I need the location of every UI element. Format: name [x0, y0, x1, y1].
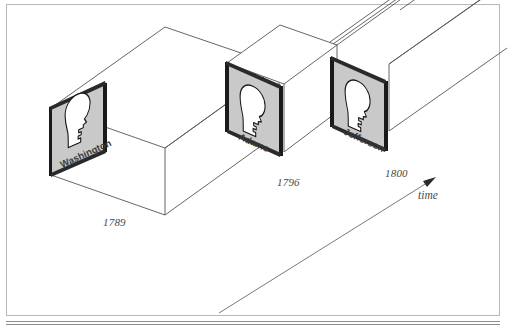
rule-line-upper	[6, 321, 500, 322]
rail-top-upper	[333, 0, 489, 44]
rule-line-lower	[6, 324, 500, 325]
rail-bottom-right	[389, 48, 507, 131]
panel-adams-left-edge	[225, 62, 229, 132]
year-label-1796: 1796	[277, 176, 300, 188]
time-axis-line	[219, 181, 430, 313]
isometric-timeline-svg: Washington Adams Jefferson	[0, 0, 507, 333]
figure-caption-cutoff	[14, 327, 214, 333]
box1-bottom-edge	[51, 175, 165, 215]
panel-washington-left-edge	[49, 107, 52, 176]
time-axis-label: time	[418, 189, 438, 201]
free-rail-1	[400, 0, 462, 10]
panel-jefferson[interactable]: Jefferson	[330, 56, 388, 154]
rail-extend-b	[389, 0, 500, 64]
panel-jefferson-right-edge	[384, 81, 388, 151]
figure-page: Washington Adams Jefferson	[0, 0, 507, 333]
rail-top-right	[389, 0, 505, 64]
perspective-rails	[337, 0, 500, 64]
free-rails	[400, 0, 462, 10]
box2-bottom-edge	[284, 112, 337, 152]
time-axis-arrow	[219, 177, 436, 313]
year-label-1789: 1789	[103, 216, 126, 228]
panel-adams-right-edge	[279, 86, 283, 156]
figure-bottom-rule	[6, 321, 500, 325]
panel-jefferson-left-edge	[330, 57, 334, 127]
rail-top-back	[330, 0, 455, 42]
panel-washington[interactable]: Washington	[49, 81, 113, 177]
arrow-up-right-icon	[423, 177, 436, 187]
rail-extend-a	[337, 0, 499, 45]
year-label-1800: 1800	[385, 167, 408, 179]
